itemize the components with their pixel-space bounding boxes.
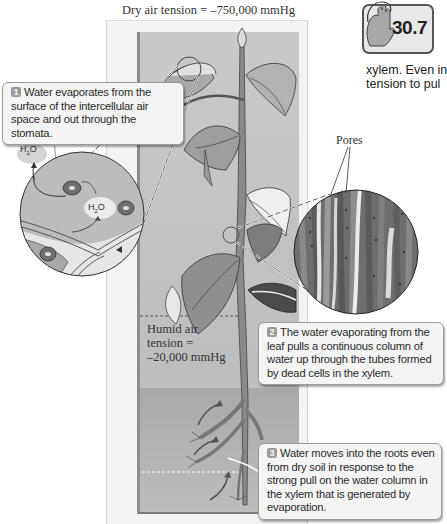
leaf-icon (248, 283, 296, 312)
step-text: Water evaporates from the surface of the… (11, 86, 151, 139)
leaf-icon (247, 224, 282, 262)
humid-label-line: Humid air (147, 322, 225, 336)
step-text: The water evaporating from the leaf pull… (267, 326, 431, 379)
step-number-badge: 1 (11, 87, 21, 97)
xylem-micrograph (292, 188, 420, 316)
step-3-callout: 3Water moves into the roots even from dr… (258, 443, 442, 520)
figure-number: 30.7 (392, 17, 427, 39)
step-number-badge: 3 (267, 448, 277, 458)
water-flow-arrow (210, 476, 228, 500)
pores-label: Pores (336, 133, 363, 148)
step-1-callout: 1Water evaporates from the surface of th… (2, 82, 184, 145)
h2o-label-outer: H2O (20, 144, 37, 156)
bud-icon (238, 28, 246, 48)
side-text-line: xylem. Even in (366, 63, 447, 77)
h2o-path-arrow (30, 176, 70, 206)
leaf-icon (184, 126, 240, 170)
pores-pointer-lines (310, 145, 370, 205)
side-body-text: xylem. Even in tension to pul (366, 63, 447, 91)
water-flow-arrow (198, 404, 220, 425)
side-text-line: tension to pul (366, 77, 447, 91)
h2o-label-inner: H2O (88, 202, 105, 214)
humid-label-line: –20,000 mmHg (147, 350, 225, 364)
humid-air-tension-label: Humid air tension = –20,000 mmHg (147, 322, 225, 364)
step-text: Water moves into the roots even from dry… (267, 447, 434, 513)
hand-icon (362, 0, 396, 50)
leaf-icon (246, 63, 296, 116)
step-number-badge: 2 (267, 327, 277, 337)
humid-label-line: tension = (147, 336, 225, 350)
step-2-callout: 2The water evaporating from the leaf pul… (258, 322, 444, 385)
